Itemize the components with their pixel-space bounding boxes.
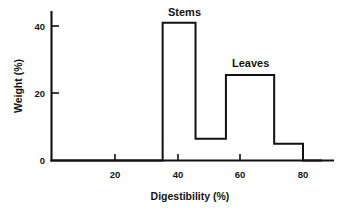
x-tick-label-60: 60 [235, 169, 246, 180]
x-axis-title: Digestibility (%) [151, 190, 230, 202]
chart-plot-area: 40 20 0 20 40 60 80 Weight (%) Digestibi… [0, 0, 339, 211]
x-tick-label-20: 20 [110, 169, 121, 180]
y-axis-title: Weight (%) [12, 59, 24, 113]
weight-distribution-step-line [52, 23, 321, 161]
y-tick-label-40: 40 [34, 21, 45, 32]
x-tick-label-80: 80 [298, 169, 309, 180]
x-tick-label-40: 40 [173, 169, 184, 180]
chart-figure: 40 20 0 20 40 60 80 Weight (%) Digestibi… [0, 0, 339, 211]
series-label-leaves: Leaves [232, 57, 269, 69]
y-tick-label-20: 20 [34, 88, 45, 99]
series-label-stems: Stems [168, 6, 201, 18]
y-tick-label-0: 0 [40, 155, 45, 166]
